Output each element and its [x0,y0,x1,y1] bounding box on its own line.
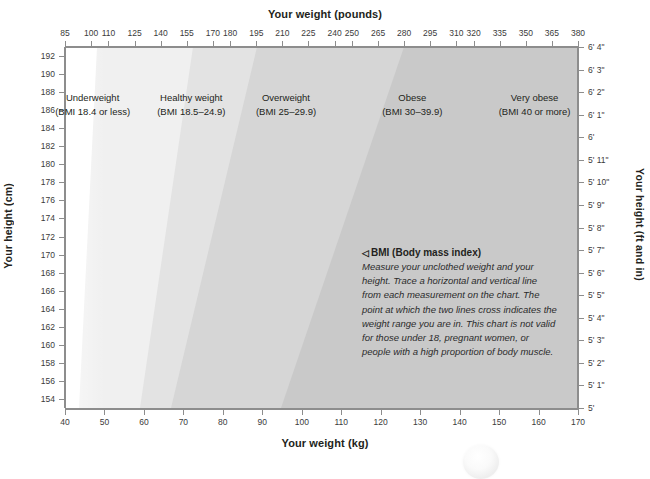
right-axis-tick-label: 5' 4" [588,313,604,323]
bottom-axis-tick-label: 170 [571,417,585,427]
bottom-axis-tick-label: 140 [453,417,467,427]
band-label-detail: (BMI 30–39.9) [382,105,442,119]
left-axis-tick [59,327,65,328]
top-axis-title: Your weight (pounds) [0,8,650,20]
top-axis-tick-label: 225 [301,28,315,38]
top-axis-tick [526,41,527,47]
bottom-axis-tick [499,409,500,415]
top-axis-tick-label: 265 [371,28,385,38]
band-label-detail: (BMI 25–29.9) [256,105,316,119]
top-axis-tick [256,41,257,47]
top-axis-tick [378,41,379,47]
left-axis-tick [59,381,65,382]
left-triangle-icon: ◁ [362,248,369,258]
top-axis-tick-label: 180 [223,28,237,38]
right-axis-tick [578,385,584,386]
top-axis-tick [430,41,431,47]
top-axis-tick-label: 85 [60,28,69,38]
bottom-axis-tick-label: 40 [60,417,69,427]
bottom-axis-tick [341,409,342,415]
bottom-axis-tick-label: 110 [334,417,348,427]
right-axis-tick [578,228,584,229]
top-axis-tick [352,41,353,47]
band-label-detail: (BMI 18.5–24.9) [157,105,225,119]
right-axis-tick [578,340,584,341]
left-axis-tick-label: 158 [25,358,55,368]
right-axis-tick-label: 5' 6" [588,268,604,278]
left-axis-tick-label: 172 [25,232,55,242]
right-axis-tick [578,205,584,206]
right-axis-tick [578,273,584,274]
top-axis-tick-label: 350 [519,28,533,38]
left-axis-tick-label: 188 [25,87,55,97]
band-label-name: Overweight [256,91,316,105]
bottom-axis-tick-label: 120 [374,417,388,427]
top-axis-tick-label: 320 [467,28,481,38]
right-axis-tick-label: 5' 5" [588,290,604,300]
bottom-axis-tick [104,409,105,415]
right-axis-tick-label: 6' 4" [588,42,604,52]
top-axis-tick [456,41,457,47]
left-axis-tick [59,309,65,310]
left-axis-tick-label: 160 [25,340,55,350]
right-axis-tick [578,70,584,71]
top-axis-tick [308,41,309,47]
bottom-axis-tick-label: 150 [492,417,506,427]
band-label-very-obese: Very obese(BMI 40 or more) [499,91,571,118]
band-label-detail: (BMI 18.4 or less) [55,105,130,119]
right-axis-tick [578,408,584,409]
top-axis-tick [91,41,92,47]
top-axis-line [65,46,578,48]
bottom-axis-tick-label: 90 [258,417,267,427]
left-axis-tick-label: 154 [25,394,55,404]
top-axis-tick-label: 110 [102,28,116,38]
top-axis-tick-label: 280 [397,28,411,38]
top-axis-tick-label: 140 [154,28,168,38]
right-axis-tick [578,318,584,319]
left-axis-tick [59,128,65,129]
bottom-axis-line [65,408,578,410]
top-axis-tick-label: 310 [449,28,463,38]
top-axis-tick [213,41,214,47]
right-axis-tick-label: 5' 10" [588,177,609,187]
right-axis-tick [578,160,584,161]
right-axis-tick-label: 5' 11" [588,155,609,165]
band-label-name: Obese [382,91,442,105]
right-axis-tick [578,182,584,183]
top-axis-tick [161,41,162,47]
left-axis-tick [59,237,65,238]
bottom-axis-tick-label: 130 [413,417,427,427]
bottom-axis-title: Your weight (kg) [0,437,650,449]
bottom-axis-tick [381,409,382,415]
right-axis-tick-label: 6' 1" [588,110,604,120]
left-axis-tick [59,56,65,57]
top-axis-tick-label: 240 [327,28,341,38]
top-axis-tick-label: 250 [345,28,359,38]
band-label-name: Underweight [55,91,130,105]
left-axis-tick-label: 190 [25,69,55,79]
band-label-overweight: Overweight(BMI 25–29.9) [256,91,316,118]
top-axis-tick [500,41,501,47]
right-axis-tick-label: 5' 3" [588,335,604,345]
top-axis-tick [135,41,136,47]
right-axis-tick-label: 5' 1" [588,380,604,390]
right-axis-tick [578,47,584,48]
left-axis-tick [59,345,65,346]
right-axis-tick-label: 5' 9" [588,200,604,210]
bottom-axis-tick [183,409,184,415]
top-axis-tick-label: 155 [180,28,194,38]
bottom-axis-tick [302,409,303,415]
bottom-axis-tick-label: 100 [295,417,309,427]
left-axis-tick-label: 178 [25,177,55,187]
right-axis-tick [578,115,584,116]
bmi-annotation-title: ◁BMI (Body mass index) [362,247,558,258]
bottom-axis-tick [420,409,421,415]
bottom-axis-tick-label: 60 [139,417,148,427]
left-axis-tick-label: 184 [25,123,55,133]
top-axis-tick-label: 210 [275,28,289,38]
top-axis-tick [335,41,336,47]
left-axis-tick [59,363,65,364]
left-axis-tick-label: 180 [25,159,55,169]
left-axis-tick [59,291,65,292]
left-axis-tick [59,74,65,75]
